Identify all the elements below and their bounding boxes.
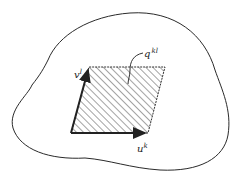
label-q: qkl — [144, 47, 158, 59]
label-u: uk — [137, 142, 148, 154]
diagram-canvas: vl qkl uk — [0, 0, 235, 182]
parallelogram-area — [71, 67, 165, 133]
label-v: vl — [74, 68, 82, 80]
